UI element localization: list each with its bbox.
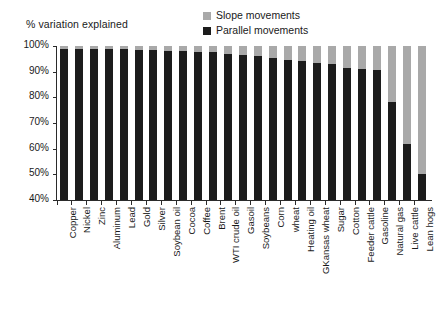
x-axis-tick-mark bbox=[116, 201, 117, 205]
legend-swatch-icon bbox=[203, 27, 211, 35]
bar-segment-parallel bbox=[328, 64, 336, 200]
bar-segment-parallel bbox=[418, 174, 426, 200]
bar-segment-parallel bbox=[209, 52, 217, 200]
bar-stack bbox=[60, 46, 68, 200]
x-axis-tick-label: Coffee bbox=[202, 207, 211, 235]
plot-area bbox=[57, 46, 431, 200]
y-axis-tick-label: 70% bbox=[29, 116, 49, 127]
y-axis-tick: 60% bbox=[0, 149, 57, 150]
bar-column[interactable] bbox=[209, 46, 217, 200]
bar-stack bbox=[149, 46, 157, 200]
x-axis-tick-label: Lean hogs bbox=[425, 207, 434, 251]
x-axis-tick-label: Heating oil bbox=[306, 207, 315, 252]
bar-column[interactable] bbox=[239, 46, 247, 200]
bar-column[interactable] bbox=[373, 46, 381, 200]
y-axis-tick: 50% bbox=[0, 174, 57, 175]
bar-segment-slope bbox=[343, 46, 351, 68]
y-axis-tick-mark bbox=[53, 174, 57, 175]
x-axis-tick-label: Live cattle bbox=[410, 207, 419, 250]
bar-segment-slope bbox=[373, 46, 381, 70]
bar-segment-slope bbox=[388, 46, 396, 102]
bar-column[interactable] bbox=[149, 46, 157, 200]
bar-stack bbox=[179, 46, 187, 200]
x-axis-tick-label: Gasoline bbox=[380, 207, 389, 245]
chart-title: % variation explained bbox=[26, 18, 128, 30]
x-axis-tick-label: Natural gas bbox=[395, 207, 404, 256]
bar-column[interactable] bbox=[284, 46, 292, 200]
x-axis-tick-mark bbox=[220, 201, 221, 205]
bar-column[interactable] bbox=[135, 46, 143, 200]
x-axis-tick-mark bbox=[206, 201, 207, 205]
bar-column[interactable] bbox=[328, 46, 336, 200]
bar-column[interactable] bbox=[75, 46, 83, 200]
bar-stack bbox=[164, 46, 172, 200]
bar-column[interactable] bbox=[388, 46, 396, 200]
bar-column[interactable] bbox=[179, 46, 187, 200]
bar-stack bbox=[284, 46, 292, 200]
x-axis-tick-mark bbox=[57, 201, 58, 205]
bar-column[interactable] bbox=[298, 46, 306, 200]
y-axis-tick: 100% bbox=[0, 46, 57, 47]
x-axis-tick-label: Silver bbox=[157, 207, 166, 231]
bar-segment-parallel bbox=[75, 49, 83, 200]
bar-segment-parallel bbox=[105, 49, 113, 200]
x-axis-tick-mark bbox=[295, 201, 296, 205]
bar-stack bbox=[254, 46, 262, 200]
bar-segment-parallel bbox=[60, 49, 68, 200]
bar-segment-parallel bbox=[194, 52, 202, 200]
y-axis-tick-mark bbox=[53, 123, 57, 124]
bar-segment-parallel bbox=[120, 49, 128, 200]
bar-column[interactable] bbox=[313, 46, 321, 200]
x-axis-tick-mark bbox=[399, 201, 400, 205]
x-axis-tick-mark bbox=[191, 201, 192, 205]
bar-column[interactable] bbox=[269, 46, 277, 200]
y-axis-tick-label: 80% bbox=[29, 90, 49, 101]
bar-column[interactable] bbox=[120, 46, 128, 200]
bar-stack bbox=[90, 46, 98, 200]
bar-column[interactable] bbox=[358, 46, 366, 200]
y-axis-tick-mark bbox=[53, 97, 57, 98]
bar-column[interactable] bbox=[254, 46, 262, 200]
x-axis-tick-label: WTI crude oil bbox=[231, 207, 240, 263]
x-axis-tick-label: Copper bbox=[68, 207, 77, 238]
bar-stack bbox=[313, 46, 321, 200]
bar-column[interactable] bbox=[60, 46, 68, 200]
x-axis-tick-label: Corn bbox=[276, 207, 285, 228]
bar-column[interactable] bbox=[403, 46, 411, 200]
x-axis-tick-mark bbox=[161, 201, 162, 205]
legend-item[interactable]: Parallel movements bbox=[203, 24, 308, 37]
x-axis-tick-mark bbox=[146, 201, 147, 205]
legend-item[interactable]: Slope movements bbox=[203, 9, 308, 22]
y-axis-tick-label: 50% bbox=[29, 167, 49, 178]
bar-segment-slope bbox=[328, 46, 336, 64]
bar-segment-parallel bbox=[90, 49, 98, 200]
bar-segment-slope bbox=[269, 46, 277, 58]
bar-stack bbox=[328, 46, 336, 200]
bar-stack bbox=[388, 46, 396, 200]
bar-segment-parallel bbox=[358, 69, 366, 200]
bar-segment-parallel bbox=[254, 56, 262, 200]
bar-column[interactable] bbox=[105, 46, 113, 200]
bar-segment-parallel bbox=[343, 68, 351, 200]
x-axis-tick-label: Gold bbox=[142, 207, 151, 227]
bar-stack bbox=[298, 46, 306, 200]
y-axis-tick-label: 40% bbox=[29, 193, 49, 204]
bar-column[interactable] bbox=[343, 46, 351, 200]
x-axis-tick-mark bbox=[310, 201, 311, 205]
x-axis-tick-mark bbox=[325, 201, 326, 205]
bar-column[interactable] bbox=[224, 46, 232, 200]
bar-column[interactable] bbox=[90, 46, 98, 200]
x-axis-tick-label: Aluminum bbox=[112, 207, 121, 249]
x-axis-tick-label: Brent bbox=[217, 207, 226, 230]
x-axis-tick-mark bbox=[265, 201, 266, 205]
bar-segment-parallel bbox=[403, 144, 411, 200]
x-axis-tick-label: GKansas wheat bbox=[321, 207, 330, 274]
y-axis-tick-mark bbox=[53, 72, 57, 73]
bar-segment-parallel bbox=[164, 51, 172, 200]
bar-column[interactable] bbox=[164, 46, 172, 200]
x-axis-tick-label: Lead bbox=[127, 207, 136, 228]
bar-column[interactable] bbox=[418, 46, 426, 200]
y-axis-tick-mark bbox=[53, 46, 57, 47]
chart-container: % variation explained Slope movementsPar… bbox=[0, 0, 445, 309]
bar-column[interactable] bbox=[194, 46, 202, 200]
